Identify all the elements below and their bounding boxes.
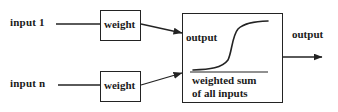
weight-n-to-neuron-arrow [141, 73, 182, 85]
neuron-diagram: input 1 input n weight weight output wei… [0, 0, 338, 112]
weight-1-to-neuron-arrow [141, 24, 182, 33]
diagram-lines-layer [0, 0, 338, 112]
sigmoid-curve [193, 21, 268, 70]
